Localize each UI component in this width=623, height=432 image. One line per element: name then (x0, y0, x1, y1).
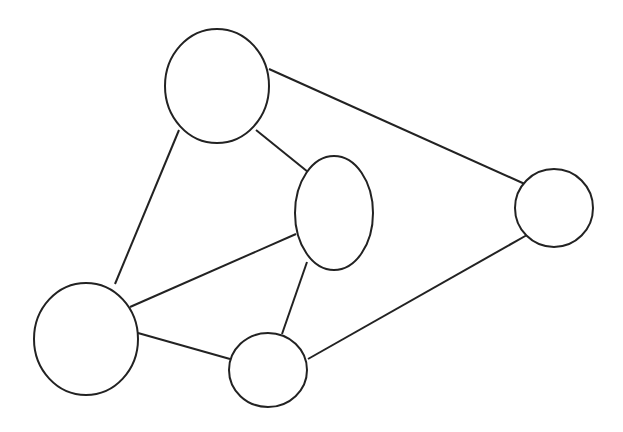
edge-n1-n4 (115, 130, 179, 284)
nodes (34, 29, 593, 407)
edge-n4-n5 (138, 333, 230, 359)
edge-n2-n4 (130, 234, 296, 307)
graph-diagram (0, 0, 623, 432)
edge-n1-n3 (269, 69, 527, 185)
node-n5 (229, 333, 307, 407)
edge-n1-n2 (256, 130, 308, 172)
edge-n2-n5 (282, 262, 307, 334)
node-n3 (515, 169, 593, 247)
node-n4 (34, 283, 138, 395)
node-n1 (165, 29, 269, 143)
node-n2 (295, 156, 373, 270)
